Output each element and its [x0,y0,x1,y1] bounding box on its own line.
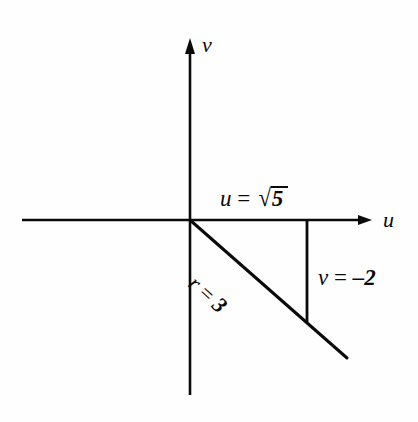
u-value-variable: u [220,186,232,211]
u-value-label: u = √5 [220,185,283,210]
v-axis-label: v [202,34,212,56]
v-axis-arrowhead [185,38,195,54]
u-value-radicand: 5 [272,186,284,211]
square-root-icon: √5 [256,185,283,210]
u-axis-label: u [383,209,394,231]
radical-overbar [271,186,288,188]
v-value-operator: = [334,265,347,290]
v-value-label: v = –2 [318,266,376,289]
radical-sign: √ [259,185,272,210]
diagram-canvas: v u u = √5 v = –2 r = 3 [0,0,418,422]
coordinate-plane-graphic [0,0,418,422]
u-axis-arrowhead [358,215,372,225]
u-value-operator: = [237,186,250,211]
v-value-number: –2 [353,265,376,290]
v-value-variable: v [318,265,328,290]
